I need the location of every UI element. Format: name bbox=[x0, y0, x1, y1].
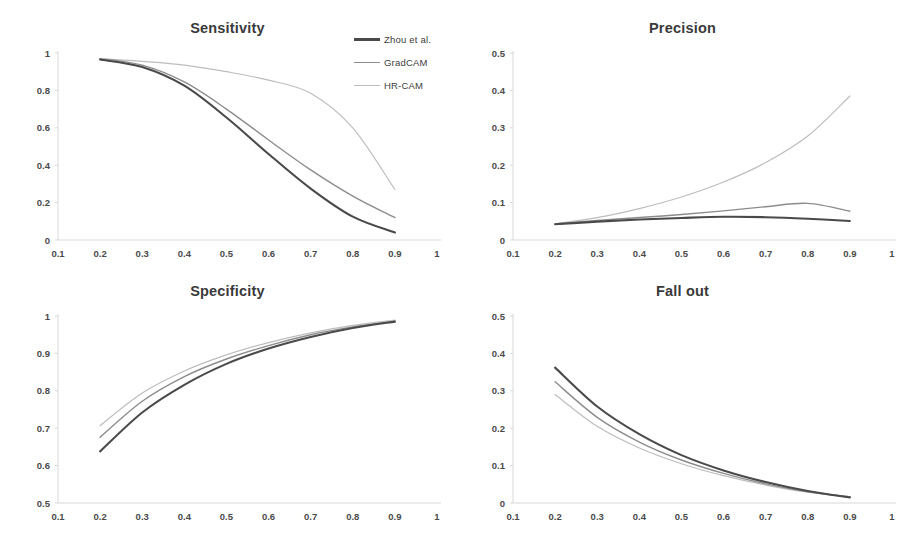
x-tick-label: 0.3 bbox=[591, 511, 604, 522]
y-tick-label: 1 bbox=[45, 48, 51, 59]
y-tick-label: 0.2 bbox=[492, 423, 505, 434]
legend-swatch-zhou bbox=[354, 38, 380, 40]
series-line-gradcam bbox=[100, 59, 395, 218]
x-tick-label: 0.9 bbox=[388, 511, 401, 522]
chart-legend: Zhou et al. GradCAM HR-CAM bbox=[354, 28, 474, 97]
x-tick-label: 0.8 bbox=[346, 511, 359, 522]
legend-label-hrcam: HR-CAM bbox=[384, 80, 423, 91]
series-line-gradcam bbox=[100, 321, 395, 437]
y-tick-label: 0.4 bbox=[492, 85, 506, 96]
y-tick-label: 0.5 bbox=[492, 48, 506, 59]
series-line-hr-cam bbox=[555, 96, 850, 224]
x-tick-label: 0.2 bbox=[94, 511, 107, 522]
x-tick-label: 0.5 bbox=[675, 248, 689, 259]
legend-item: HR-CAM bbox=[354, 74, 474, 97]
chart-panel-specificity: Specificity 0.50.60.70.80.910.10.20.30.4… bbox=[0, 283, 455, 545]
x-tick-label: 0.6 bbox=[262, 511, 275, 522]
x-tick-label: 0.5 bbox=[220, 248, 234, 259]
x-tick-label: 0.2 bbox=[549, 248, 562, 259]
y-tick-label: 0.1 bbox=[492, 460, 506, 471]
x-tick-label: 0.3 bbox=[591, 248, 604, 259]
y-tick-label: 0.3 bbox=[492, 385, 505, 396]
plot-area-fall-out: 00.10.20.30.40.50.10.20.30.40.50.60.70.8… bbox=[455, 283, 910, 545]
plot-area-specificity: 0.50.60.70.80.910.10.20.30.40.50.60.70.8… bbox=[0, 283, 455, 545]
y-tick-label: 0.4 bbox=[37, 160, 51, 171]
chart-panel-fall-out: Fall out 00.10.20.30.40.50.10.20.30.40.5… bbox=[455, 283, 910, 545]
x-tick-label: 0.1 bbox=[506, 511, 520, 522]
x-tick-label: 0.6 bbox=[262, 248, 275, 259]
y-tick-label: 0 bbox=[45, 235, 50, 246]
x-tick-label: 0.8 bbox=[346, 248, 359, 259]
legend-item: GradCAM bbox=[354, 51, 474, 74]
x-tick-label: 0.2 bbox=[94, 248, 107, 259]
y-tick-label: 0.8 bbox=[37, 85, 50, 96]
x-tick-label: 0.7 bbox=[759, 248, 772, 259]
x-tick-label: 1 bbox=[889, 248, 895, 259]
y-tick-label: 1 bbox=[45, 311, 51, 322]
x-tick-label: 0.3 bbox=[136, 511, 149, 522]
x-tick-label: 0.9 bbox=[843, 511, 856, 522]
x-tick-label: 0.7 bbox=[304, 248, 317, 259]
x-tick-label: 1 bbox=[434, 248, 440, 259]
series-line-gradcam bbox=[555, 382, 850, 497]
x-tick-label: 0.7 bbox=[759, 511, 772, 522]
x-tick-label: 0.1 bbox=[506, 248, 520, 259]
x-tick-label: 0.8 bbox=[801, 248, 814, 259]
series-line-zhou-et-al bbox=[100, 322, 395, 452]
series-line-zhou-et-al bbox=[100, 60, 395, 233]
x-tick-label: 0.9 bbox=[843, 248, 856, 259]
x-tick-label: 0.3 bbox=[136, 248, 149, 259]
y-tick-label: 0.6 bbox=[37, 460, 50, 471]
y-tick-label: 0 bbox=[500, 235, 505, 246]
y-tick-label: 0.8 bbox=[37, 385, 50, 396]
x-tick-label: 0.4 bbox=[178, 511, 192, 522]
x-tick-label: 0.4 bbox=[633, 248, 647, 259]
y-tick-label: 0.9 bbox=[37, 348, 50, 359]
x-tick-label: 0.6 bbox=[717, 511, 730, 522]
y-tick-label: 0.5 bbox=[37, 498, 51, 509]
x-tick-label: 1 bbox=[434, 511, 440, 522]
x-tick-label: 0.9 bbox=[388, 248, 401, 259]
x-tick-label: 0.1 bbox=[51, 511, 65, 522]
x-tick-label: 0.2 bbox=[549, 511, 562, 522]
x-tick-label: 0.8 bbox=[801, 511, 814, 522]
legend-item: Zhou et al. bbox=[354, 28, 474, 51]
series-line-zhou-et-al bbox=[555, 217, 850, 225]
y-tick-label: 0.1 bbox=[492, 197, 506, 208]
y-tick-label: 0.2 bbox=[492, 160, 505, 171]
series-line-hr-cam bbox=[555, 395, 850, 497]
x-tick-label: 1 bbox=[889, 511, 895, 522]
figure-root: Sensitivity 00.20.40.60.810.10.20.30.40.… bbox=[0, 0, 910, 545]
legend-label-gradcam: GradCAM bbox=[384, 57, 428, 68]
legend-swatch-hrcam bbox=[354, 85, 380, 86]
legend-swatch-gradcam bbox=[354, 62, 380, 64]
y-tick-label: 0.7 bbox=[37, 423, 50, 434]
y-tick-label: 0.5 bbox=[492, 311, 506, 322]
x-tick-label: 0.4 bbox=[178, 248, 192, 259]
y-tick-label: 0 bbox=[500, 498, 505, 509]
plot-area-precision: 00.10.20.30.40.50.10.20.30.40.50.60.70.8… bbox=[455, 20, 910, 282]
y-tick-label: 0.3 bbox=[492, 122, 505, 133]
y-tick-label: 0.6 bbox=[37, 122, 50, 133]
chart-panel-precision: Precision 00.10.20.30.40.50.10.20.30.40.… bbox=[455, 20, 910, 282]
x-tick-label: 0.1 bbox=[51, 248, 65, 259]
y-tick-label: 0.2 bbox=[37, 197, 50, 208]
y-tick-label: 0.4 bbox=[492, 348, 506, 359]
x-tick-label: 0.7 bbox=[304, 511, 317, 522]
x-tick-label: 0.5 bbox=[220, 511, 234, 522]
series-line-zhou-et-al bbox=[555, 368, 850, 498]
x-tick-label: 0.6 bbox=[717, 248, 730, 259]
x-tick-label: 0.4 bbox=[633, 511, 647, 522]
x-tick-label: 0.5 bbox=[675, 511, 689, 522]
legend-label-zhou: Zhou et al. bbox=[384, 34, 431, 45]
